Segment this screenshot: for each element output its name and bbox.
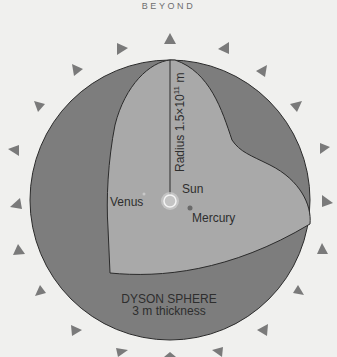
venus-label: Venus (110, 195, 143, 209)
arrow-icon (13, 244, 25, 255)
arrow-icon (218, 42, 229, 54)
arrow-icon (71, 325, 82, 336)
arrow-icon (8, 145, 19, 156)
arrow-icon (293, 285, 304, 295)
arrow-icon (256, 65, 267, 77)
arrow-icon (164, 352, 176, 357)
arrow-icon (117, 43, 128, 55)
arrow-icon (322, 195, 333, 207)
arrow-icon (164, 33, 176, 44)
arrow-icon (212, 347, 223, 357)
sun-label: Sun (182, 182, 203, 196)
arrow-icon (35, 285, 46, 296)
arrow-icon (34, 101, 45, 112)
mercury-icon (188, 206, 193, 211)
arrow-icon (320, 143, 330, 154)
arrow-icon (317, 243, 328, 254)
sun-icon (164, 195, 176, 207)
dyson-sphere-diagram: Radius 1.5×1011 m Sun Venus Mercury DYSO… (0, 0, 337, 357)
thickness-label: 3 m thickness (132, 304, 205, 318)
mercury-label: Mercury (192, 211, 235, 225)
arrow-icon (10, 198, 22, 209)
arrow-icon (290, 101, 302, 112)
arrow-icon (257, 324, 268, 336)
arrow-icon (116, 348, 128, 357)
arrow-icon (72, 64, 83, 76)
